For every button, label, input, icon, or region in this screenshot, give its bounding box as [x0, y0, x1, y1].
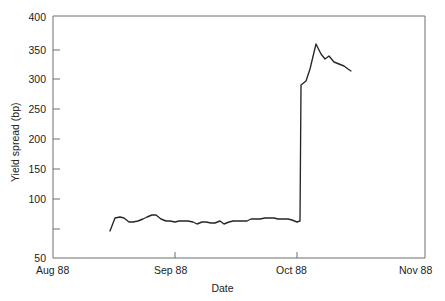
x-axis-ticks — [175, 252, 297, 258]
ytick-label-400: 400 — [12, 12, 46, 23]
chart-plot-area — [0, 0, 445, 301]
xtick-label-nov-88: Nov 88 — [399, 265, 432, 276]
xtick-label-oct-88: Oct 88 — [276, 265, 307, 276]
xtick-label-aug-88: Aug 88 — [36, 265, 69, 276]
ytick-label-300: 300 — [12, 74, 46, 85]
ytick-label-100: 100 — [12, 194, 46, 205]
axis-frame — [53, 16, 425, 258]
x-axis-title: Date — [0, 283, 445, 294]
y-axis-title: Yield spread (bp) — [10, 94, 21, 190]
data-series-line — [110, 44, 351, 231]
ytick-label-50: 50 — [12, 253, 46, 264]
xtick-label-sep-88: Sep 88 — [154, 265, 187, 276]
ytick-label-350: 350 — [12, 45, 46, 56]
y-axis-ticks — [53, 50, 60, 229]
chart-figure: 400 350 300 250 200 150 100 50 Aug 88 Se… — [0, 0, 445, 301]
